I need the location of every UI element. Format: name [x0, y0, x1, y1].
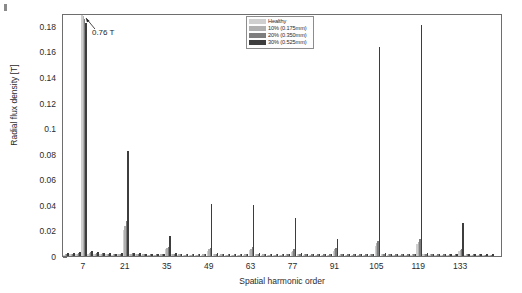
x-axis-tick-label: 77	[288, 261, 297, 271]
legend-label-30pct: 30% (0.525mm)	[268, 39, 307, 46]
x-axis-tick-label: 91	[330, 261, 339, 271]
bar	[337, 239, 338, 256]
bar	[379, 47, 380, 256]
x-axis-tick-label: 49	[204, 261, 213, 271]
legend-item[interactable]: 20% (0.350mm)	[249, 32, 311, 39]
y-axis-tick-label: 0.1	[18, 124, 56, 134]
legend-item[interactable]: 10% (0.175mm)	[249, 25, 311, 32]
bar	[211, 204, 212, 256]
y-axis-tick-label: 0.12	[18, 99, 56, 109]
y-axis-tick-label: 0	[18, 252, 56, 262]
legend-item[interactable]: 30% (0.525mm)	[249, 39, 311, 46]
x-axis-tick-label: 7	[81, 261, 86, 271]
legend-swatch-30pct	[249, 40, 266, 45]
y-axis-tick-label: 0.08	[18, 150, 56, 160]
figure-corner-mark	[4, 4, 7, 11]
y-axis-tick-label: 0.16	[18, 47, 56, 57]
bar	[462, 223, 463, 256]
y-axis-tick-label: 0.14	[18, 73, 56, 83]
legend-label-20pct: 20% (0.350mm)	[268, 32, 307, 39]
legend-item[interactable]: Healthy	[249, 18, 311, 25]
y-axis-tick-label: 0.06	[18, 175, 56, 185]
peak-value-annotation: 0.76 T	[92, 28, 115, 37]
y-axis-tick-label: 0.04	[18, 201, 56, 211]
bar-series-layer	[63, 15, 501, 256]
x-axis-tick-label: 63	[246, 261, 255, 271]
x-axis-title: Spatial harmonic order	[62, 276, 502, 286]
x-axis-tick-label: 119	[411, 261, 425, 271]
legend-label-healthy: Healthy	[268, 18, 286, 25]
x-axis-tick-label: 35	[162, 261, 171, 271]
legend-label-10pct: 10% (0.175mm)	[268, 25, 307, 32]
y-axis-tick-label: 0.02	[18, 226, 56, 236]
y-axis-title: Radial flux density [T]	[9, 5, 19, 205]
bar	[127, 151, 128, 257]
bar	[85, 23, 86, 256]
bar	[492, 254, 493, 256]
x-axis-tick-label: 133	[453, 261, 467, 271]
legend-swatch-20pct	[249, 33, 266, 38]
x-axis-tick-label: 21	[120, 261, 129, 271]
bar	[421, 25, 422, 256]
y-axis-tick-mark	[63, 257, 67, 258]
legend[interactable]: Healthy 10% (0.175mm) 20% (0.350mm) 30% …	[246, 16, 314, 49]
bar	[253, 205, 254, 256]
legend-swatch-healthy	[249, 19, 266, 24]
y-axis-tick-label: 0.18	[18, 22, 56, 32]
bar	[169, 236, 170, 256]
x-axis-tick-label: 105	[369, 261, 383, 271]
figure-canvas: 00.020.040.060.080.10.120.140.160.18 721…	[0, 0, 522, 293]
bar	[295, 218, 296, 256]
plot-area	[62, 14, 502, 257]
legend-swatch-10pct	[249, 26, 266, 31]
